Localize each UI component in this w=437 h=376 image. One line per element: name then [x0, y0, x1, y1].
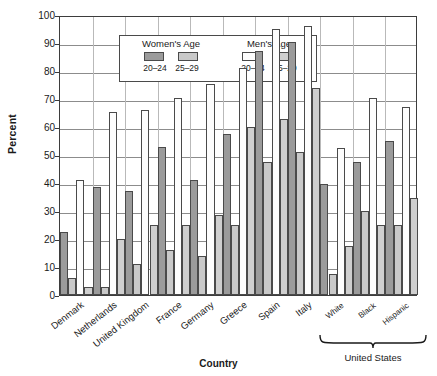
- bar-m2024-united-kingdom: [141, 110, 149, 295]
- bar-m2024-black: [369, 98, 377, 295]
- bar-m2024-france: [174, 98, 182, 295]
- legend-swatch-women-25-29: [178, 52, 198, 61]
- bar-w2024-united-kingdom: [125, 191, 133, 295]
- bar-w2024-italy: [288, 42, 296, 295]
- bar-m2529-denmark: [84, 287, 92, 295]
- bar-m2529-netherlands: [117, 239, 125, 295]
- bar-m2024-spain: [272, 29, 280, 295]
- bar-m2529-greece: [247, 127, 255, 295]
- y-tick-label: 30: [29, 207, 55, 217]
- y-tick-label: 100: [29, 11, 55, 21]
- bar-m2024-denmark: [76, 180, 84, 295]
- bar-w2529-italy: [296, 152, 304, 295]
- bar-m2024-greece: [239, 68, 247, 295]
- y-tick-label: 80: [29, 67, 55, 77]
- bar-w2529-greece: [231, 225, 239, 295]
- y-tick-label: 60: [29, 123, 55, 133]
- bar-m2529-germany: [215, 215, 223, 295]
- legend-title-women: Women's Age: [124, 38, 218, 49]
- bar-m2529-black: [377, 225, 385, 295]
- bar-m2529-white: [345, 246, 353, 295]
- bar-w2529-black: [361, 211, 369, 295]
- bar-w2529-united-kingdom: [133, 264, 141, 295]
- y-tick-label: 50: [29, 151, 55, 161]
- bar-w2024-white: [320, 184, 328, 295]
- legend-group-men: Men's Age 20–24 25–29: [224, 38, 314, 73]
- bar-m2529-hispanic: [410, 198, 418, 295]
- chart-figure: Percent 0102030405060708090100 Women's A…: [0, 0, 437, 376]
- legend-key-women-20-24: 20–24: [142, 63, 168, 73]
- bar-m2024-netherlands: [109, 112, 117, 295]
- y-tick-label: 10: [29, 263, 55, 273]
- bar-m2529-united-kingdom: [150, 225, 158, 295]
- legend-key-women-25-29: 25–29: [174, 63, 200, 73]
- y-tick-label: 90: [29, 39, 55, 49]
- legend-swatch-women-20-24: [144, 52, 164, 61]
- bar-w2024-spain: [255, 51, 263, 295]
- plot-area: Women's Age 20–24 25–29 Men's Age 20–24: [59, 16, 417, 296]
- bar-m2529-italy: [312, 88, 320, 295]
- legend-keys-men: 20–24 25–29: [224, 63, 314, 73]
- bar-m2529-spain: [280, 119, 288, 295]
- bar-m2024-italy: [304, 26, 312, 295]
- bar-m2024-white: [337, 148, 345, 295]
- bar-w2529-spain: [263, 162, 271, 295]
- legend-swatches-women: [124, 52, 218, 61]
- bar-w2024-denmark: [60, 232, 68, 295]
- y-tick-label: 40: [29, 179, 55, 189]
- bar-w2024-netherlands: [93, 187, 101, 295]
- y-tick-label: 20: [29, 235, 55, 245]
- bar-w2529-denmark: [68, 278, 76, 295]
- bar-w2529-hispanic: [394, 225, 402, 295]
- bar-m2024-hispanic: [402, 107, 410, 295]
- bar-w2024-germany: [190, 180, 198, 295]
- bar-w2024-greece: [223, 134, 231, 295]
- bar-w2529-netherlands: [101, 287, 109, 295]
- bar-w2529-france: [166, 250, 174, 295]
- bar-m2529-france: [182, 225, 190, 295]
- bar-m2024-germany: [206, 84, 214, 295]
- y-axis-label: Percent: [6, 94, 18, 174]
- united-states-bracket: [318, 334, 428, 350]
- bar-w2024-black: [353, 162, 361, 295]
- legend-swatches-men: [224, 52, 314, 61]
- legend-title-men: Men's Age: [224, 38, 314, 49]
- bar-w2529-germany: [198, 256, 206, 295]
- legend-keys-women: 20–24 25–29: [124, 63, 218, 73]
- x-axis-label: Country: [0, 358, 437, 369]
- bar-w2024-france: [158, 147, 166, 295]
- y-tick-label: 70: [29, 95, 55, 105]
- bar-w2024-hispanic: [385, 141, 393, 295]
- bar-w2529-white: [329, 274, 337, 295]
- legend-group-women: Women's Age 20–24 25–29: [124, 38, 218, 73]
